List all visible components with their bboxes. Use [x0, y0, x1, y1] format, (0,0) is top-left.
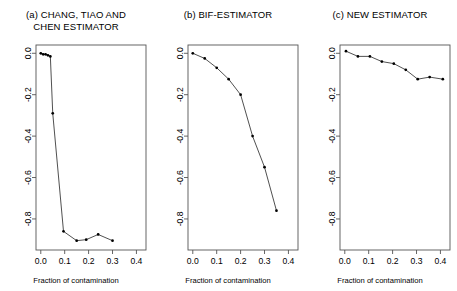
data-point	[111, 239, 114, 242]
x-tick-label: 0.3	[259, 256, 271, 266]
panel-a-svg: 0.00.10.20.30.40.0-0.2-0.4-0.6-0.8	[0, 0, 152, 291]
x-tick-label: 0.0	[187, 256, 199, 266]
x-tick-label: 0.4	[434, 256, 446, 266]
data-point	[263, 166, 266, 169]
panel-a: (a) CHANG, TIAO AND CHEN ESTIMATOR 0.00.…	[0, 0, 152, 291]
panel-c-svg: 0.00.10.20.30.40.0-0.2-0.4-0.6-0.8	[304, 0, 456, 291]
data-point	[191, 52, 194, 55]
x-tick-label: 0.3	[411, 256, 423, 266]
data-point	[441, 78, 444, 81]
data-point	[392, 62, 395, 65]
data-point	[416, 78, 419, 81]
data-point	[42, 53, 45, 56]
data-point	[369, 55, 372, 58]
panel-b-xlabel: Fraction of contamination	[152, 276, 304, 285]
y-tick-label: -0.8	[327, 211, 337, 226]
data-point	[97, 233, 100, 236]
x-tick-label: 0.2	[83, 256, 95, 266]
x-tick-label: 0.3	[107, 256, 119, 266]
plot-frame	[188, 45, 298, 250]
y-tick-label: -0.4	[175, 128, 185, 143]
data-point	[44, 53, 47, 56]
data-point	[357, 55, 360, 58]
y-tick-label: 0.0	[327, 47, 337, 59]
x-tick-label: 0.4	[282, 256, 294, 266]
data-point	[75, 239, 78, 242]
x-tick-label: 0.4	[130, 256, 142, 266]
data-point	[251, 135, 254, 138]
panel-b-svg: 0.00.10.20.30.40.0-0.2-0.4-0.6-0.8	[152, 0, 304, 291]
data-point	[39, 52, 42, 55]
y-tick-label: -0.4	[23, 128, 33, 143]
data-point	[239, 93, 242, 96]
data-point	[227, 78, 230, 81]
x-tick-label: 0.1	[211, 256, 223, 266]
data-point	[345, 50, 348, 53]
y-tick-label: -0.2	[327, 87, 337, 102]
figure-three-panel-estimator-bias: (a) CHANG, TIAO AND CHEN ESTIMATOR 0.00.…	[0, 0, 457, 291]
x-tick-label: 0.2	[387, 256, 399, 266]
data-point	[404, 69, 407, 72]
data-point	[47, 54, 50, 57]
y-tick-label: -0.6	[175, 170, 185, 185]
plot-frame	[340, 45, 450, 250]
panel-b: (b) BIF-ESTIMATOR 0.00.10.20.30.40.0-0.2…	[152, 0, 304, 291]
panel-a-xlabel: Fraction of contamination	[0, 276, 152, 285]
plot-frame	[36, 45, 146, 250]
y-tick-label: -0.2	[23, 87, 33, 102]
series-line	[41, 53, 113, 240]
x-tick-label: 0.1	[363, 256, 375, 266]
y-tick-label: -0.8	[175, 211, 185, 226]
panel-c: (c) NEW ESTIMATOR 0.00.10.20.30.40.0-0.2…	[304, 0, 456, 291]
data-point	[49, 55, 52, 58]
data-point	[428, 76, 431, 79]
data-point	[381, 60, 384, 63]
panel-a-plot: 0.00.10.20.30.40.0-0.2-0.4-0.6-0.8	[0, 0, 152, 291]
panel-c-plot: 0.00.10.20.30.40.0-0.2-0.4-0.6-0.8	[304, 0, 456, 291]
x-tick-label: 0.0	[35, 256, 47, 266]
data-point	[275, 209, 278, 212]
series-line	[346, 51, 443, 79]
panel-b-plot: 0.00.10.20.30.40.0-0.2-0.4-0.6-0.8	[152, 0, 304, 291]
x-tick-label: 0.1	[59, 256, 71, 266]
y-tick-label: 0.0	[23, 47, 33, 59]
y-tick-label: -0.4	[327, 128, 337, 143]
y-tick-label: -0.6	[23, 170, 33, 185]
data-point	[85, 238, 88, 241]
x-tick-label: 0.0	[339, 256, 351, 266]
x-tick-label: 0.2	[235, 256, 247, 266]
data-point	[51, 112, 54, 115]
y-tick-label: -0.6	[327, 170, 337, 185]
data-point	[62, 230, 65, 233]
data-point	[203, 57, 206, 60]
data-point	[215, 66, 218, 69]
y-tick-label: 0.0	[175, 47, 185, 59]
y-tick-label: -0.2	[175, 87, 185, 102]
y-tick-label: -0.8	[23, 211, 33, 226]
series-line	[193, 53, 277, 210]
panel-c-xlabel: Fraction of contamination	[304, 276, 456, 285]
